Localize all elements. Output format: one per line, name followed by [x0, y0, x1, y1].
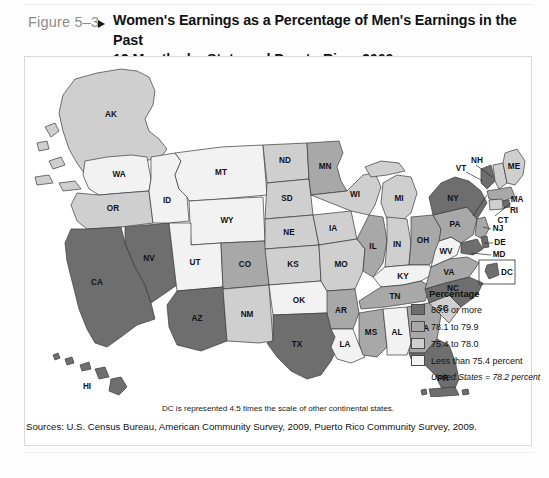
state-label-ND: ND: [279, 156, 291, 165]
region-MS: MS: [359, 309, 387, 357]
state-label-NM: NM: [241, 310, 254, 319]
state-label-HI: HI: [83, 382, 91, 391]
region-KS: KS: [265, 245, 321, 285]
state-label-VT: VT: [456, 164, 466, 173]
region-OR: OR: [71, 191, 153, 229]
region-AL: AL: [383, 307, 411, 355]
state-label-ME: ME: [508, 162, 521, 171]
map-frame: AK WA OR CA NV: [24, 56, 532, 446]
legend-item: 75.4 to 78.0: [411, 338, 539, 349]
region-HI: HI: [53, 353, 127, 395]
state-label-TX: TX: [292, 340, 303, 349]
legend-item: 78.1 to 79.9: [411, 321, 539, 332]
region-AR: AR: [327, 289, 359, 329]
state-label-AL: AL: [392, 328, 403, 337]
state-label-MN: MN: [319, 162, 332, 171]
region-SD: SD: [265, 179, 313, 219]
state-label-ID: ID: [163, 196, 171, 205]
state-label-NV: NV: [143, 254, 155, 263]
region-OK: OK: [269, 281, 331, 315]
state-label-KY: KY: [397, 272, 409, 281]
figure-number: Figure 5–3: [28, 14, 99, 30]
state-label-RI: RI: [510, 206, 518, 215]
region-CO: CO: [221, 241, 269, 289]
map-legend: Percentage 80.0 or more 78.1 to 79.9 75.…: [411, 288, 539, 382]
region-NE: NE: [265, 215, 319, 249]
region-NM: NM: [223, 285, 273, 343]
region-VT: [481, 165, 495, 189]
state-label-VA: VA: [444, 268, 455, 277]
legend-item-label: Less than 75.4 percent: [431, 356, 523, 366]
bottom-divider: [24, 452, 534, 453]
region-WA: WA: [83, 155, 151, 195]
figure-page: Figure 5–3 Women's Earnings as a Percent…: [0, 0, 549, 478]
region-IN: IN: [385, 217, 411, 267]
state-label-UT: UT: [190, 258, 201, 267]
legend-item: 80.0 or more: [411, 304, 539, 315]
sources-note: Sources: U.S. Census Bureau, American Co…: [26, 421, 526, 432]
legend-swatch: [411, 321, 425, 332]
region-ME: ME: [503, 149, 525, 185]
region-MN: MN: [307, 141, 347, 195]
triangle-right-icon: [98, 20, 105, 28]
state-label-AK: AK: [105, 110, 117, 119]
state-label-OK: OK: [293, 296, 305, 305]
state-label-PA: PA: [450, 220, 461, 229]
legend-item: Less than 75.4 percent: [411, 355, 539, 366]
state-label-OR: OR: [107, 204, 119, 213]
region-TX: TX: [267, 313, 339, 379]
legend-item-label: 75.4 to 78.0: [431, 339, 479, 349]
state-label-MT: MT: [215, 168, 227, 177]
state-label-DC: DC: [501, 268, 513, 277]
region-MD: [461, 239, 483, 255]
region-AZ: AZ: [167, 287, 227, 351]
state-label-MO: MO: [334, 260, 348, 269]
legend-item-label: 80.0 or more: [431, 305, 482, 315]
legend-swatch: [411, 338, 425, 349]
state-label-OH: OH: [417, 236, 429, 245]
state-label-TN: TN: [390, 292, 401, 301]
state-label-NY: NY: [447, 194, 459, 203]
state-label-KS: KS: [287, 260, 299, 269]
region-ND: ND: [263, 143, 309, 183]
legend-swatch: [411, 355, 425, 366]
state-label-WI: WI: [350, 190, 360, 199]
region-CT: [489, 199, 503, 210]
legend-item-label: 78.1 to 79.9: [431, 322, 479, 332]
state-label-DE: DE: [494, 238, 506, 247]
state-label-WV: WV: [439, 247, 453, 256]
state-label-NE: NE: [283, 228, 295, 237]
state-label-MS: MS: [365, 328, 378, 337]
state-label-MI: MI: [394, 194, 403, 203]
state-label-LA: LA: [340, 340, 351, 349]
region-MT: MT: [175, 145, 267, 201]
state-label-IA: IA: [329, 224, 337, 233]
state-label-WA: WA: [112, 170, 125, 179]
state-label-IL: IL: [369, 242, 376, 251]
state-label-SD: SD: [281, 194, 292, 203]
state-label-AZ: AZ: [192, 314, 203, 323]
state-label-AR: AR: [335, 306, 347, 315]
region-WY: WY: [189, 197, 265, 245]
state-label-NJ: NJ: [493, 224, 503, 233]
state-label-NH: NH: [471, 156, 483, 165]
legend-title: Percentage: [429, 288, 539, 299]
state-label-WY: WY: [220, 216, 234, 225]
state-label-MA: MA: [511, 195, 524, 204]
legend-national-note: United States = 78.2 percent: [431, 372, 539, 382]
region-DE: [481, 236, 489, 248]
state-label-CA: CA: [91, 278, 103, 287]
state-label-IN: IN: [393, 240, 401, 249]
region-MO: MO: [319, 239, 365, 291]
legend-swatch: [411, 304, 425, 315]
figure-header: Figure 5–3 Women's Earnings as a Percent…: [0, 0, 549, 56]
dc-scale-note: DC is represented 4.5 times the scale of…: [25, 404, 531, 413]
figure-title-line1: Women's Earnings as a Percentage of Men'…: [113, 12, 517, 48]
state-label-MD: MD: [493, 250, 506, 259]
region-DC: DC: [479, 260, 515, 284]
state-label-CO: CO: [239, 260, 252, 269]
